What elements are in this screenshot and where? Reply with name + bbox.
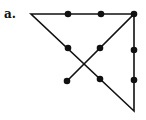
dot-1 bbox=[65, 11, 72, 18]
nine-dot-diagram: a. bbox=[0, 0, 146, 120]
solution-path bbox=[31, 14, 134, 111]
dot-5 bbox=[97, 45, 104, 52]
dot-9 bbox=[131, 77, 138, 84]
dot-6 bbox=[131, 47, 138, 54]
dot-2 bbox=[98, 11, 105, 18]
dot-3 bbox=[131, 11, 138, 18]
dot-7 bbox=[64, 78, 71, 85]
figure-label: a. bbox=[4, 7, 16, 21]
dot-4 bbox=[65, 45, 72, 52]
dot-8 bbox=[97, 76, 104, 83]
